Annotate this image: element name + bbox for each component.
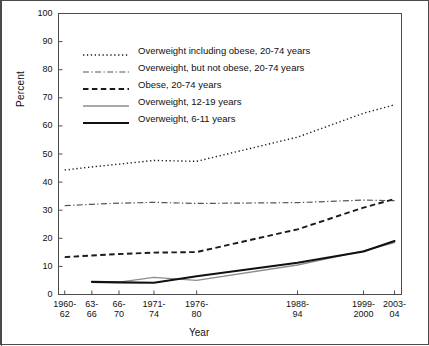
legend-item: Overweight, 12-19 years	[83, 93, 310, 110]
legend-item: Overweight including obese, 20-74 years	[83, 42, 310, 59]
legend-item: Overweight, but not obese, 20-74 years	[83, 59, 310, 76]
legend-item: Obese, 20-74 years	[83, 76, 310, 93]
series-lines	[65, 105, 395, 283]
legend-key-overweight-not-obese	[83, 63, 129, 73]
legend-label: Overweight, 6-11 years	[138, 113, 236, 124]
legend-label: Obese, 20-74 years	[138, 79, 221, 90]
series-line	[92, 241, 395, 283]
series-line	[65, 200, 395, 206]
legend-label: Overweight, but not obese, 20-74 years	[138, 62, 304, 73]
chart-legend: Overweight including obese, 20-74 yearsO…	[83, 42, 310, 127]
series-line	[92, 243, 395, 283]
series-line	[65, 199, 395, 257]
legend-key-overweight-including-obese	[83, 46, 129, 56]
legend-key-obese	[83, 80, 129, 90]
legend-item: Overweight, 6-11 years	[83, 110, 310, 127]
legend-label: Overweight including obese, 20-74 years	[138, 45, 310, 56]
legend-label: Overweight, 12-19 years	[138, 96, 242, 107]
legend-key-overweight-6-11	[83, 114, 129, 124]
legend-key-overweight-12-19	[83, 97, 129, 107]
